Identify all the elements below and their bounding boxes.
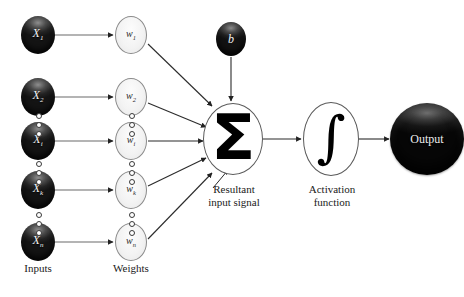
input-dots-2 — [36, 161, 42, 185]
caption-inputs: Inputs — [8, 262, 68, 275]
weight-node-1[interactable]: w1 — [115, 16, 147, 54]
input-label-2: X2 — [33, 89, 44, 104]
output-label: Output — [410, 133, 443, 145]
activation-node[interactable]: ∫ — [303, 102, 359, 176]
integral-icon: ∫ — [316, 109, 345, 165]
input-label-1: X1 — [33, 27, 44, 42]
input-label-5: Xn — [33, 234, 44, 249]
weight-label-1: w1 — [126, 29, 136, 42]
weight-node-2[interactable]: w2 — [115, 78, 147, 116]
bias-label: b — [228, 33, 234, 45]
bias-node[interactable]: b — [216, 22, 246, 56]
output-node[interactable]: Output — [390, 103, 464, 175]
weight-label-4: wk — [126, 184, 136, 197]
summation-node[interactable]: Σ — [203, 103, 263, 175]
weight-label-2: w2 — [126, 91, 136, 104]
weight-dots-1 — [129, 113, 135, 137]
wire-wk-sum — [148, 158, 206, 186]
weight-label-5: wn — [126, 236, 136, 249]
sigma-icon: Σ — [211, 107, 255, 169]
caption-resultant-input-signal: Resultant input signal — [196, 183, 272, 208]
weight-dots-2 — [129, 161, 135, 185]
input-dots-1 — [36, 113, 42, 137]
input-dots-3 — [36, 212, 42, 236]
neuron-diagram: X1 X2 Xi Xk Xn w1 w2 wi wk wn — [0, 0, 464, 297]
wire-w2-sum — [148, 103, 206, 127]
input-node-2[interactable]: X2 — [21, 78, 55, 116]
caption-activation-function: Activation function — [294, 183, 370, 208]
caption-weights: Weights — [101, 262, 161, 275]
weight-dots-3 — [129, 212, 135, 236]
input-node-1[interactable]: X1 — [21, 16, 55, 54]
wire-w1-sum — [148, 44, 212, 106]
